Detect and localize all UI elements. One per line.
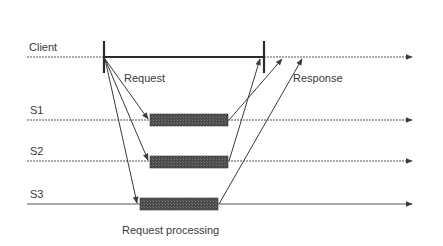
lane-label-s1: S1 <box>30 104 43 116</box>
response-label: Response <box>293 72 343 84</box>
processing-bar-s1 <box>150 114 228 126</box>
lane-label-s2: S2 <box>30 145 43 157</box>
processing-bar-s2 <box>150 156 228 168</box>
lane-label-client: Client <box>29 41 57 53</box>
sequence-diagram: Client S1 S2 S3 Request Response Request… <box>0 0 443 246</box>
client-interval <box>104 41 264 73</box>
response-arrow-s2 <box>229 59 260 161</box>
response-arrows <box>219 59 302 204</box>
response-arrow-s1 <box>229 59 282 120</box>
processing-bar-s3 <box>140 198 218 210</box>
request-processing-label: Request processing <box>122 224 219 236</box>
lane-label-s3: S3 <box>30 188 43 200</box>
request-label: Request <box>124 72 165 84</box>
response-arrow-s3 <box>219 59 302 204</box>
lane-client: Client <box>27 41 412 57</box>
lane-s3: S3 <box>27 188 412 204</box>
